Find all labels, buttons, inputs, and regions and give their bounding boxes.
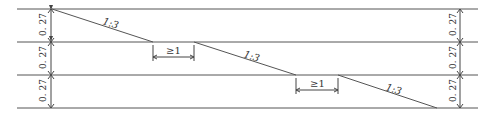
right-dim-label-2: 0. 27 [448, 46, 458, 69]
left-dim-label-3: 0. 27 [38, 79, 48, 102]
setback-label-2: ≥1 [310, 78, 325, 89]
right-dim-label-1: 0. 27 [448, 13, 458, 36]
slope-label-2: 1:3 [242, 48, 261, 63]
slope-label-1: 1:3 [101, 15, 120, 30]
left-dim-label-1: 0. 27 [38, 13, 48, 36]
stepped-slope-diagram: 1:3 1:3 1:3 0. 27 0. 27 0. 27 0. 27 0. 2… [0, 0, 495, 117]
right-dim-label-3: 0. 27 [448, 79, 458, 102]
left-dimension [48, 9, 54, 108]
slope-label-3: 1:3 [384, 81, 403, 96]
setback-label-1: ≥1 [166, 45, 181, 56]
left-dim-label-2: 0. 27 [38, 46, 48, 69]
